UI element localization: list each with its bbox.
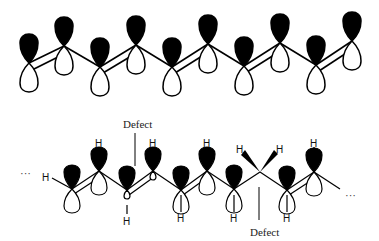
- defect-label: Defect: [123, 118, 152, 130]
- top-chain-orbitals: [20, 12, 361, 96]
- p-orbital: [343, 12, 361, 70]
- p-orbital-defect: [119, 166, 135, 199]
- sp3-wedges: [241, 150, 278, 172]
- p-orbital: [91, 38, 109, 96]
- top-chain: [20, 12, 361, 96]
- p-orbital: [307, 36, 325, 94]
- p-orbital: [20, 34, 38, 92]
- defect-label: Defect: [250, 226, 279, 238]
- hydrogen-label: H: [123, 216, 130, 227]
- wedge-bond: [241, 150, 260, 172]
- ellipsis-right: ···: [345, 189, 356, 201]
- hydrogen-label: H: [230, 213, 237, 224]
- p-orbital: [127, 16, 145, 74]
- hydrogen-label: H: [310, 138, 317, 149]
- top-chain-bonds: [29, 41, 354, 73]
- hydrogen-label: H: [42, 172, 49, 183]
- bottom-chain: ··· ···: [20, 118, 356, 238]
- p-orbital: [91, 147, 107, 195]
- p-orbital: [163, 38, 181, 96]
- ch-bonds-overlay: [181, 195, 287, 212]
- p-orbital: [199, 15, 217, 73]
- hydrogen-label: H: [283, 213, 290, 224]
- hydrogen-label: H: [276, 144, 283, 155]
- p-orbital: [55, 17, 73, 75]
- hydrogen-label: H: [203, 138, 210, 149]
- hydrogen-label: H: [177, 213, 184, 224]
- p-orbital: [271, 14, 289, 72]
- polyacetylene-diagram: ··· ···: [0, 0, 379, 241]
- p-orbital: [235, 37, 253, 95]
- defect-annotation-2: Defect: [250, 187, 279, 238]
- p-orbital: [199, 147, 215, 195]
- ellipsis-left: ···: [20, 167, 31, 179]
- hydrogen-label: H: [149, 138, 156, 149]
- p-orbital: [64, 165, 80, 213]
- hydrogen-label: H: [236, 144, 243, 155]
- hydrogen-label: H: [95, 138, 102, 149]
- p-orbital: [306, 148, 322, 196]
